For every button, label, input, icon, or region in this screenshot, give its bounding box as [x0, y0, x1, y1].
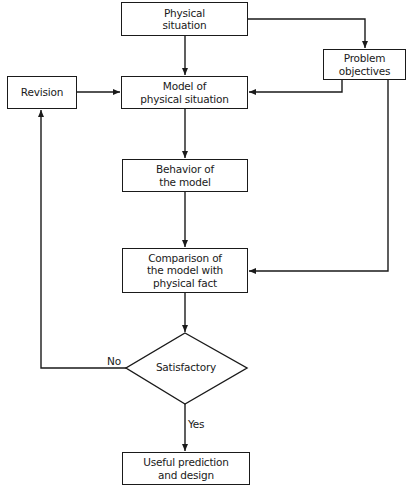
node-behavior: Behavior of the model — [122, 159, 248, 192]
edge-label-yes: Yes — [188, 418, 204, 430]
node-revision: Revision — [7, 76, 77, 109]
node-problem-objectives-label: Problem objectives — [339, 52, 390, 77]
node-physical-situation-label: Physical situation — [163, 7, 207, 32]
arrow-physical-to-objectives — [248, 19, 365, 48]
node-problem-objectives: Problem objectives — [323, 49, 406, 80]
arrow-decision-no-to-revision — [41, 110, 126, 368]
node-comparison: Comparison of the model with physical fa… — [122, 248, 248, 293]
arrow-objectives-to-comparison — [249, 80, 388, 271]
node-useful-prediction-label: Useful prediction and design — [143, 456, 229, 481]
node-behavior-label: Behavior of the model — [156, 163, 214, 188]
node-model: Model of physical situation — [121, 76, 248, 109]
edge-label-no: No — [107, 355, 121, 367]
node-model-label: Model of physical situation — [140, 80, 229, 105]
node-useful-prediction: Useful prediction and design — [122, 452, 250, 485]
decision-label: Satisfactory — [125, 361, 247, 373]
node-physical-situation: Physical situation — [121, 2, 248, 36]
arrow-objectives-to-model — [249, 80, 342, 92]
node-revision-label: Revision — [21, 86, 63, 99]
node-comparison-label: Comparison of the model with physical fa… — [147, 252, 223, 290]
